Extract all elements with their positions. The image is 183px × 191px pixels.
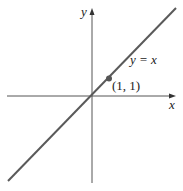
line-label: y = x bbox=[130, 53, 157, 66]
y-axis-arrow-icon bbox=[90, 8, 95, 15]
point-label: (1, 1) bbox=[112, 79, 140, 92]
y-axis-label: y bbox=[81, 5, 87, 18]
plot-canvas bbox=[0, 0, 183, 191]
x-axis-label: x bbox=[169, 98, 175, 111]
